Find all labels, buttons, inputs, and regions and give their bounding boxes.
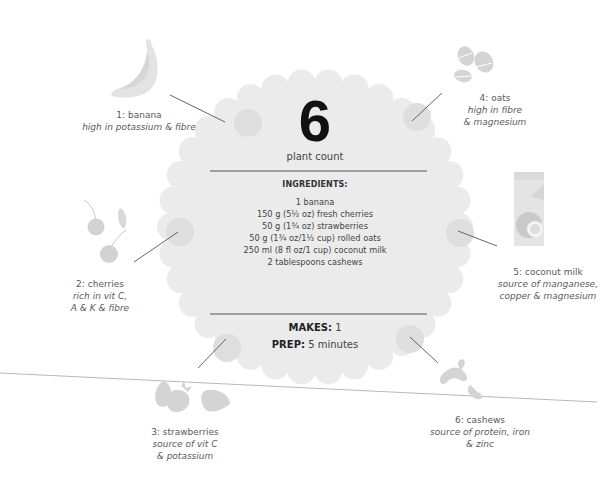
callout-name: 2: cherries [40, 278, 160, 290]
cherries-icon [84, 200, 126, 263]
callout-banana: 1: banana high in potassium & fibre [64, 109, 214, 133]
prep-value: 5 minutes [308, 339, 358, 350]
callout-benefit: & magnesium [440, 116, 550, 128]
dot-coconut-milk [446, 219, 474, 247]
callout-benefit: source of protein, iron [405, 426, 555, 438]
ingredient-item: 250 ml (8 fl oz/1 cup) coconut milk [200, 244, 430, 256]
callout-name: 6: cashews [405, 414, 555, 426]
callout-strawberries: 3: strawberries source of vit C & potass… [130, 426, 240, 462]
callout-cashews: 6: cashews source of protein, iron & zin… [405, 414, 555, 450]
callout-coconut-milk: 5: coconut milk source of manganese, cop… [488, 266, 602, 302]
callout-name: 5: coconut milk [488, 266, 602, 278]
callout-benefit: & potassium [130, 450, 240, 462]
ingredient-item: 150 g (5½ oz) fresh cherries [200, 208, 430, 220]
dot-cashews [396, 325, 424, 353]
prep-label: PREP: [272, 339, 305, 350]
coconut-milk-carton-icon [514, 172, 544, 246]
callout-benefit: A & K & fibre [40, 302, 160, 314]
prep-row: PREP: 5 minutes [230, 339, 400, 350]
makes-row: MAKES: 1 [230, 322, 400, 333]
callout-cherries: 2: cherries rich in vit C, A & K & fibre [40, 278, 160, 314]
ingredient-item: 1 banana [200, 196, 430, 208]
callout-benefit: & zinc [405, 438, 555, 450]
callout-benefit: source of manganese, [488, 278, 602, 290]
callout-oats: 4: oats high in fibre & magnesium [440, 92, 550, 128]
ingredients-title: INGREDIENTS: [215, 180, 415, 189]
callout-benefit: source of vit C [130, 438, 240, 450]
callout-name: 4: oats [440, 92, 550, 104]
banana-icon [111, 39, 157, 97]
callout-name: 3: strawberries [130, 426, 240, 438]
makes-value: 1 [335, 322, 341, 333]
ingredient-item: 50 g (1¾ oz/1½ cup) rolled oats [200, 232, 430, 244]
cashews-icon [440, 359, 482, 399]
ingredients-list: 1 banana 150 g (5½ oz) fresh cherries 50… [200, 196, 430, 268]
dot-cherries [166, 218, 194, 246]
plant-count-number: 6 [255, 92, 375, 150]
plant-count-label: plant count [255, 151, 375, 162]
ingredient-item: 50 g (1¾ oz) strawberries [200, 220, 430, 232]
callout-benefit: high in fibre [440, 104, 550, 116]
callout-name: 1: banana [64, 109, 214, 121]
callout-benefit: copper & magnesium [488, 290, 602, 302]
callout-benefit: rich in vit C, [40, 290, 160, 302]
makes-label: MAKES: [288, 322, 331, 333]
oats-icon [453, 44, 497, 84]
ingredient-item: 2 tablespoons cashews [200, 256, 430, 268]
callout-benefit: high in potassium & fibre [64, 121, 214, 133]
strawberries-icon [155, 381, 230, 412]
